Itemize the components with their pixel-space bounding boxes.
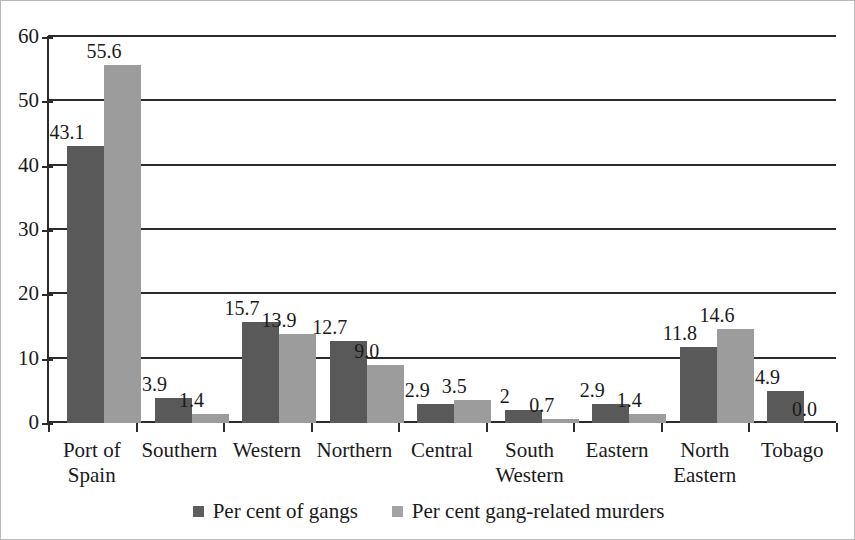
y-axis-labels: 0102030405060: [1, 1, 39, 540]
x-tick-mark: [748, 423, 750, 432]
x-category-label: Tobago: [737, 438, 847, 463]
y-tick-label-50: 50: [0, 90, 39, 111]
x-category-label-line: Spain: [37, 463, 147, 488]
legend-swatch-icon: [193, 506, 204, 517]
x-category-label-line: Eastern: [650, 463, 760, 488]
legend-swatch-icon: [392, 506, 403, 517]
x-tick-mark: [398, 423, 400, 432]
y-tick-label-40: 40: [0, 155, 39, 176]
chart-figure: 0102030405060 43.155.63.91.415.713.912.7…: [0, 0, 855, 540]
x-tick-mark: [836, 423, 838, 432]
x-tick-mark: [48, 423, 50, 432]
y-tick-label-60: 60: [0, 26, 39, 47]
legend-label: Per cent of gangs: [213, 501, 358, 522]
y-tick-label-20: 20: [0, 283, 39, 304]
x-tick-mark: [661, 423, 663, 432]
x-category-label-line: Tobago: [737, 438, 847, 463]
x-tick-mark: [136, 423, 138, 432]
chart-legend: Per cent of gangsPer cent gang-related m…: [1, 501, 855, 522]
y-tick-label-10: 10: [0, 348, 39, 369]
x-tick-mark: [223, 423, 225, 432]
legend-item[interactable]: Per cent of gangs: [193, 501, 358, 522]
legend-item[interactable]: Per cent gang-related murders: [392, 501, 664, 522]
legend-label: Per cent gang-related murders: [412, 501, 664, 522]
x-axis-category-labels: Port ofSpainSouthernWesternNorthernCentr…: [48, 438, 836, 498]
x-tick-mark: [573, 423, 575, 432]
x-tick-mark: [486, 423, 488, 432]
y-tick-label-0: 0: [0, 412, 39, 433]
x-tick-mark: [311, 423, 313, 432]
y-tick-label-30: 30: [0, 219, 39, 240]
x-category-label-line: Western: [475, 463, 585, 488]
